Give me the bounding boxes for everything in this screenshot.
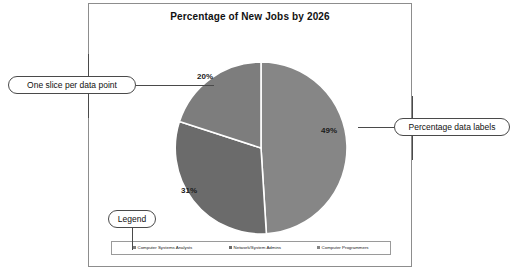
callout-legend: Legend: [108, 210, 156, 228]
pie-slice-computer-programmers[interactable]: [261, 62, 347, 234]
legend-item[interactable]: Computer Programmers: [317, 246, 368, 250]
callout-percentage-data-labels: Percentage data labels: [394, 118, 510, 136]
callout-one-slice-per-data-point: One slice per data point: [8, 76, 136, 94]
screenshot-root: Percentage of New Jobs by 2026 20% 49% 3…: [0, 0, 515, 273]
legend-item[interactable]: Network/System Admins: [229, 246, 281, 250]
callout-connector-slice-vertical-top: [88, 54, 89, 76]
callout-connector-labels-vertical-top: [412, 96, 413, 118]
pie-svg: [175, 62, 347, 234]
pie-data-label-31: 31%: [181, 186, 197, 195]
pie-data-label-20: 20%: [197, 72, 213, 81]
callout-connector-labels: [358, 127, 394, 128]
legend-item-label: Network/System Admins: [234, 246, 282, 250]
legend-item-label: Computer Programmers: [322, 246, 369, 250]
callout-connector-slice-vertical-bottom: [88, 94, 89, 118]
chart-title: Percentage of New Jobs by 2026: [89, 11, 411, 22]
callout-connector-legend: [132, 228, 133, 250]
legend-swatch-icon: [133, 246, 136, 249]
legend-item[interactable]: Computer Systems Analysts: [133, 246, 192, 250]
legend-swatch-icon: [317, 246, 320, 249]
legend-swatch-icon: [229, 246, 232, 249]
pie-chart[interactable]: [175, 62, 347, 234]
callout-connector-labels-vertical-bottom: [412, 136, 413, 160]
chart-legend[interactable]: Computer Systems Analysts Network/System…: [111, 241, 391, 255]
callout-connector-slice: [136, 85, 214, 86]
pie-data-label-49: 49%: [321, 126, 337, 135]
legend-item-label: Computer Systems Analysts: [138, 246, 193, 250]
